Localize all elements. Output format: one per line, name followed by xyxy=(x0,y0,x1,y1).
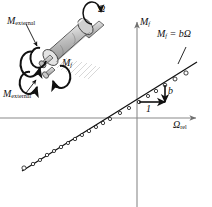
slope-rise-label: b xyxy=(168,85,173,96)
data-point xyxy=(38,158,41,161)
data-point xyxy=(127,106,130,109)
data-points xyxy=(22,71,188,170)
data-point xyxy=(154,89,157,92)
data-point xyxy=(66,141,69,144)
data-point xyxy=(87,129,90,132)
data-point xyxy=(118,111,121,114)
y-axis-label: Mf xyxy=(140,16,150,27)
data-point xyxy=(184,71,188,75)
data-point xyxy=(45,153,48,156)
fit-equation-label: Mf = bΩ xyxy=(157,28,191,39)
data-point xyxy=(101,121,104,124)
plot-axes xyxy=(0,22,196,207)
data-point xyxy=(108,117,111,120)
data-point xyxy=(31,162,34,165)
annotation-leader xyxy=(178,47,186,64)
data-point xyxy=(94,125,97,128)
figure-canvas: Mexternal Mexternal Mf Ω xyxy=(0,0,212,207)
x-axis-label: Ωrel xyxy=(173,119,187,130)
data-point xyxy=(173,77,177,81)
slope-triangle xyxy=(139,85,165,102)
data-point xyxy=(59,145,62,148)
data-point xyxy=(80,133,83,136)
data-point xyxy=(52,149,55,152)
data-point xyxy=(22,166,26,170)
data-point xyxy=(146,94,149,97)
slope-run-label: 1 xyxy=(146,103,151,114)
data-point xyxy=(73,137,76,140)
